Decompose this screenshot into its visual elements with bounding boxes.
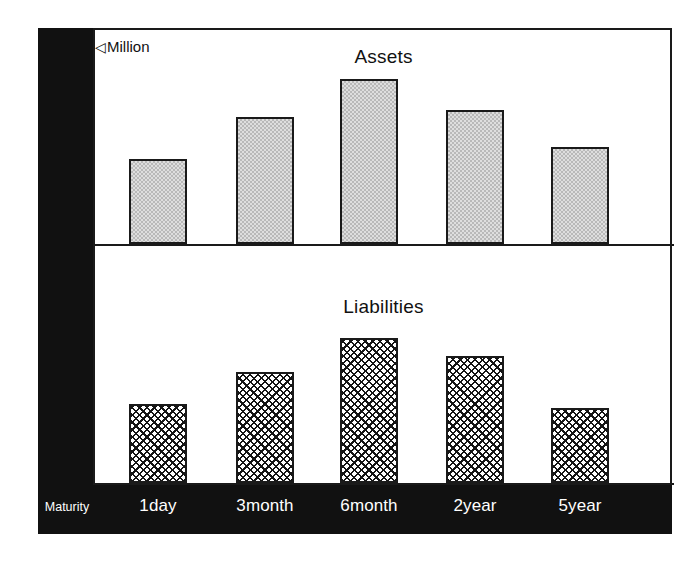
x-axis-baseline [93,483,674,485]
category-label-1day: 1day [117,496,199,516]
bar-assets-3month [236,117,294,244]
axis-name-maturity: Maturity [41,500,93,514]
panel-title-liabilities: Liabilities [95,296,672,318]
left-black-band [38,28,93,534]
bar-liabilities-2year [446,356,504,483]
bar-liabilities-1day [129,404,187,483]
maturity-ladder-bar-chart: ◁Million Assets Liabilities Maturity 1da… [0,0,700,564]
bar-liabilities-3month [236,372,294,483]
bar-liabilities-5year [551,408,609,483]
bar-assets-5year [551,147,609,244]
bar-assets-2year [446,110,504,244]
bar-liabilities-6month [340,338,398,483]
panel-assets: ◁Million Assets [95,30,672,244]
category-label-5year: 5year [539,496,621,516]
category-label-3month: 3month [224,496,306,516]
panel-liabilities: Liabilities [95,246,672,483]
category-label-2year: 2year [434,496,516,516]
bar-assets-6month [340,79,398,244]
bar-assets-1day [129,159,187,244]
panel-title-assets: Assets [95,46,672,68]
category-label-6month: 6month [328,496,410,516]
